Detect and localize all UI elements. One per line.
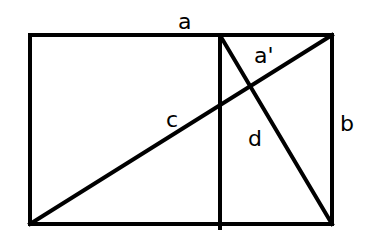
label-c: c	[166, 107, 178, 132]
label-d: d	[248, 126, 262, 151]
label-a: a	[178, 9, 191, 34]
label-a-prime: a'	[254, 43, 274, 68]
diagonal-c	[30, 35, 332, 224]
geometry-diagram: a a' b c d	[0, 0, 367, 244]
diagonal-d	[221, 37, 332, 224]
label-b: b	[340, 111, 354, 136]
